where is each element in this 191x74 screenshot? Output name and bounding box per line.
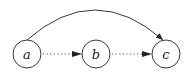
node-b: b	[82, 40, 110, 68]
node-a: a	[13, 40, 41, 68]
arrowhead-a-to-b	[72, 51, 82, 57]
node-a-label: a	[23, 47, 31, 62]
arrowhead-b-to-c	[142, 51, 152, 57]
node-c: c	[152, 40, 180, 68]
node-c-label: c	[162, 47, 170, 62]
graph-canvas: a b c	[0, 0, 191, 74]
edge-a-to-c	[27, 10, 163, 40]
node-b-label: b	[92, 47, 100, 62]
